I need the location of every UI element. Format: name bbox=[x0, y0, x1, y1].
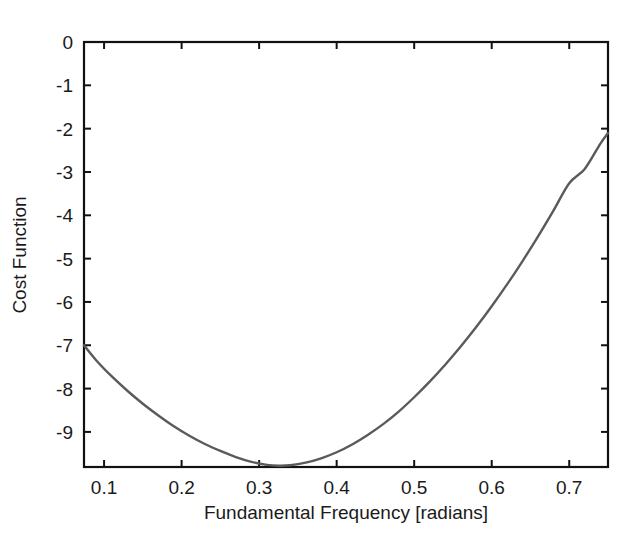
y-tick-label: -9 bbox=[56, 422, 73, 443]
x-tick-label: 0.3 bbox=[246, 477, 272, 498]
y-tick-label: 0 bbox=[62, 32, 73, 53]
y-tick-label: -4 bbox=[56, 205, 73, 226]
x-axis-title: Fundamental Frequency [radians] bbox=[204, 502, 488, 523]
y-axis-title: Cost Function bbox=[9, 196, 30, 313]
y-tick-label: -2 bbox=[56, 119, 73, 140]
x-tick-label: 0.7 bbox=[556, 477, 582, 498]
chart-background bbox=[0, 0, 638, 543]
x-tick-label: 0.4 bbox=[323, 477, 350, 498]
x-tick-label: 0.6 bbox=[478, 477, 504, 498]
y-tick-label: -1 bbox=[56, 75, 73, 96]
y-tick-label: -8 bbox=[56, 379, 73, 400]
y-tick-label: -5 bbox=[56, 249, 73, 270]
cost-function-line-chart: 0.10.20.30.40.50.60.7 0-1-2-3-4-5-6-7-8-… bbox=[0, 0, 638, 543]
y-tick-label: -3 bbox=[56, 162, 73, 183]
x-tick-label: 0.1 bbox=[91, 477, 117, 498]
x-tick-label: 0.2 bbox=[168, 477, 194, 498]
figure-canvas: 0.10.20.30.40.50.60.7 0-1-2-3-4-5-6-7-8-… bbox=[0, 0, 638, 543]
y-tick-label: -6 bbox=[56, 292, 73, 313]
x-tick-label: 0.5 bbox=[401, 477, 427, 498]
y-tick-label: -7 bbox=[56, 335, 73, 356]
